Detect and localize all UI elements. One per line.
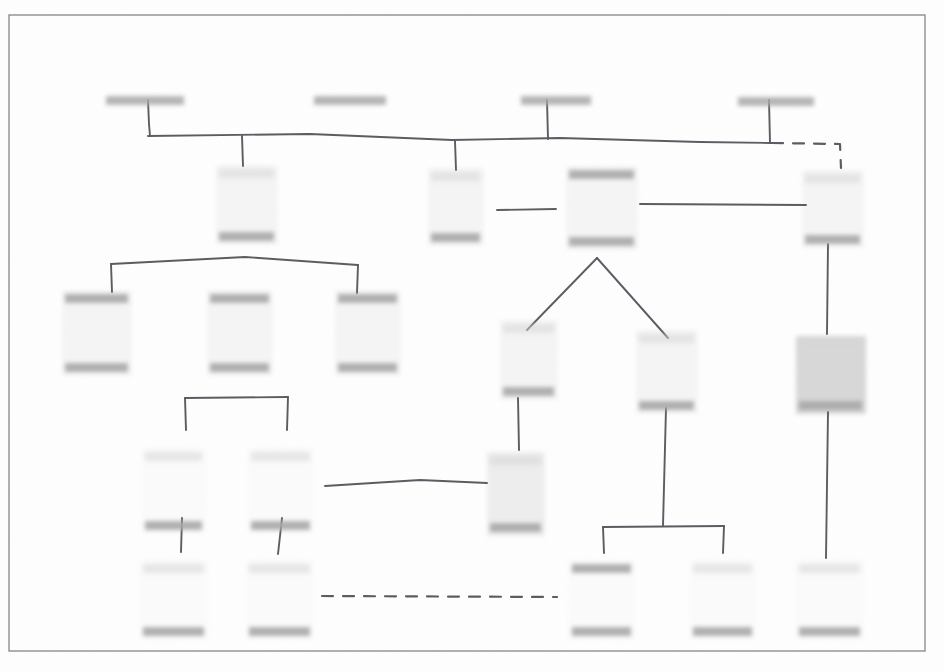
- connector-bracket: [185, 397, 288, 398]
- connector-drop-stem: [603, 527, 604, 553]
- connector-drop-stem: [357, 265, 358, 293]
- connector-drop-stem: [185, 398, 186, 430]
- connector-drop-stem: [769, 100, 770, 143]
- connector-rule: [640, 204, 806, 205]
- diagram-canvas: [0, 0, 944, 672]
- node-label-smudge: [314, 96, 386, 105]
- connector-drop-stem: [547, 100, 548, 139]
- node-label-smudge: [106, 96, 184, 105]
- node-label-smudge: [738, 97, 814, 106]
- connector-drop-stem: [111, 264, 112, 292]
- connector-bracket: [603, 526, 724, 527]
- connector-drop-stem: [287, 397, 288, 430]
- node-label-smudge: [521, 96, 591, 105]
- hierarchy-diagram: [0, 0, 944, 672]
- connector-drop-stem: [723, 526, 724, 553]
- connector-drop-stem: [455, 141, 456, 170]
- connector-rule: [497, 209, 556, 210]
- connector-drop-stem: [242, 136, 243, 166]
- connector-drop-stem: [827, 244, 828, 334]
- connector-drop-stem: [518, 398, 519, 450]
